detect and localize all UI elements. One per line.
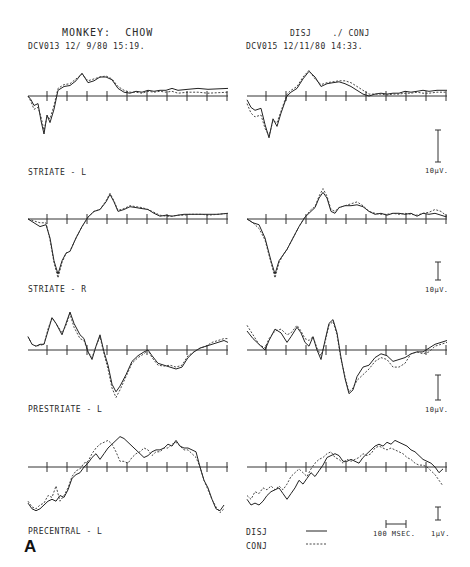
waveform-disj — [28, 194, 228, 274]
scale-label-row4: 1μV. — [431, 530, 450, 538]
waveform-conj — [28, 74, 228, 130]
legend-disj-label: DISJ — [246, 528, 267, 537]
time-scale-label: 100 MSEC. — [373, 530, 415, 538]
waveform-disj — [28, 437, 224, 511]
label-striate-r: STRIATE - R — [28, 285, 86, 294]
scale-label-row1: 10μV. — [425, 167, 449, 175]
legend-conj-label: CONJ — [246, 542, 267, 551]
waveform-plots — [0, 0, 470, 567]
waveform-disj — [28, 312, 228, 392]
waveform-disj — [247, 192, 447, 274]
waveform-conj — [247, 322, 447, 392]
waveform-conj — [247, 189, 447, 278]
panel-letter: A — [24, 537, 36, 557]
waveform-conj — [247, 446, 443, 499]
waveform-disj — [247, 440, 443, 505]
scale-label-row3: 10μV. — [425, 406, 449, 414]
label-prestriate-l: PRESTRIATE - L — [28, 405, 102, 414]
waveform-conj — [28, 193, 228, 278]
label-striate-l: STRIATE - L — [28, 168, 86, 177]
scale-label-row2: 10μV. — [425, 286, 449, 294]
label-precentral-l: PRECENTRAL - L — [28, 527, 102, 536]
waveform-disj — [28, 73, 228, 134]
